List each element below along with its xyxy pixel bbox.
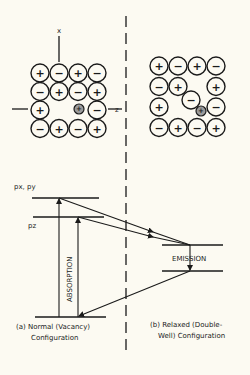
lattice-normal-vacancy: +−+−−+−++−−+−++ [31, 64, 106, 138]
relaxation-arrow-pz [78, 217, 153, 237]
ion-charge: + [173, 81, 182, 94]
ion: − [150, 78, 168, 96]
ion-charge: + [35, 67, 44, 80]
absorption-label: ABSORPTION [66, 256, 74, 302]
ion-charge: − [154, 122, 163, 135]
ion: + [169, 78, 187, 96]
ion: − [88, 101, 106, 119]
ion-charge: + [92, 123, 101, 136]
ion: + [69, 64, 87, 82]
relaxation-arrow-px-py [59, 198, 153, 232]
ion: − [31, 83, 49, 101]
ion-charge: + [54, 123, 63, 136]
ion: − [182, 91, 200, 109]
ion-charge: − [35, 86, 44, 99]
ion: − [69, 120, 87, 138]
ion: − [50, 64, 68, 82]
level-label-px-py: px, py [14, 183, 36, 191]
ion-charge: − [154, 81, 163, 94]
ion: + [150, 57, 168, 75]
ion: + [31, 64, 49, 82]
ion-charge: − [192, 122, 201, 135]
ion: + [88, 120, 106, 138]
ion: + [169, 119, 187, 137]
x-axis-label: x [57, 27, 61, 35]
color-center-diagram: x z +−+−−+−++−−+−++ +−+−−+++−−+−+−+ px, … [0, 0, 250, 375]
ion: − [31, 120, 49, 138]
ion: − [150, 119, 168, 137]
ion-charge: + [173, 122, 182, 135]
defect-charge: + [198, 107, 204, 115]
ion: − [207, 57, 225, 75]
z-axis-label: z [115, 106, 119, 114]
ion-charge: − [54, 67, 63, 80]
ion-charge: + [211, 81, 220, 94]
ion-charge: + [92, 86, 101, 99]
ion-charge: + [154, 60, 163, 73]
ion-charge: − [73, 123, 82, 136]
caption-b-line2: Well) Configuration [158, 332, 225, 340]
ion: − [169, 57, 187, 75]
caption-a-line1: (a) Normal (Vacancy) [16, 323, 90, 331]
ion: − [88, 64, 106, 82]
ion-charge: − [35, 123, 44, 136]
return-arrow [79, 271, 190, 316]
ion-charge: + [192, 60, 201, 73]
ion-charge: + [73, 67, 82, 80]
trapped-defect: + [196, 106, 206, 116]
ion: + [50, 83, 68, 101]
ion: + [207, 78, 225, 96]
ion-charge: + [35, 104, 44, 117]
ion: + [150, 98, 168, 116]
caption-b-line1: (b) Relaxed (Double- [150, 321, 223, 329]
ion-charge: + [154, 101, 163, 114]
ion-charge: − [92, 67, 101, 80]
ion: + [188, 57, 206, 75]
ion: + [50, 120, 68, 138]
level-label-pz: pz [28, 222, 36, 230]
ion: + [88, 83, 106, 101]
emission-label: EMISSION [172, 255, 206, 263]
ion-charge: − [211, 101, 220, 114]
ion-charge: − [73, 86, 82, 99]
ion-charge: − [211, 60, 220, 73]
ion: − [69, 83, 87, 101]
lattice-relaxed-double-well: +−+−−+++−−+−+−+ [150, 57, 225, 137]
ion: − [188, 119, 206, 137]
defect-charge: + [76, 105, 82, 113]
ion: − [207, 98, 225, 116]
ion-charge: + [54, 86, 63, 99]
ion: + [31, 101, 49, 119]
ion-charge: − [173, 60, 182, 73]
caption-a-line2: Configuration [31, 334, 78, 342]
ion-charge: − [186, 94, 195, 107]
ion-charge: − [92, 104, 101, 117]
ion-charge: + [211, 122, 220, 135]
ion: + [207, 119, 225, 137]
trapped-defect: + [74, 104, 84, 114]
